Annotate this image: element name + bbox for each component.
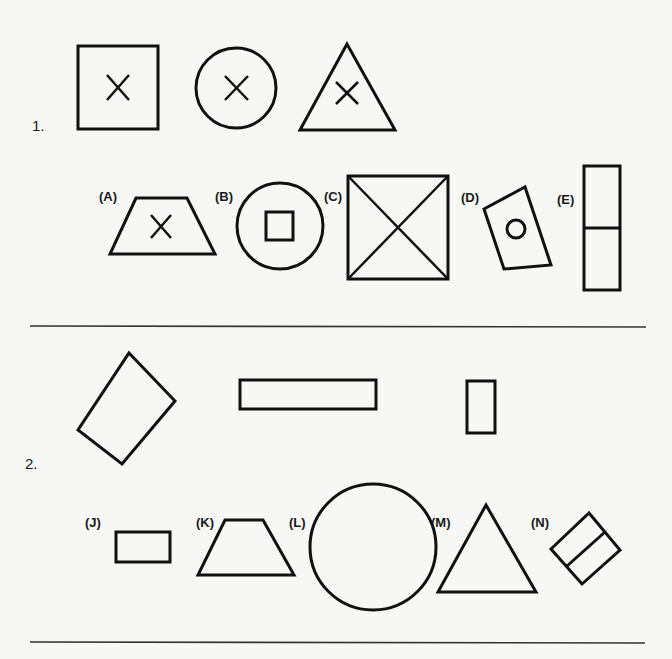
diagram-page: 1. 2. (A) (B) (C) (D) (E) (J) (K) (L) (M… — [0, 0, 672, 659]
option-c-label[interactable]: (C) — [324, 190, 342, 203]
option-n-tilted-divided-rectangle[interactable] — [551, 513, 620, 584]
option-e-label[interactable]: (E) — [557, 193, 574, 206]
option-c-square-with-diagonals[interactable] — [348, 176, 448, 279]
q2-wide-rectangle — [240, 380, 376, 409]
option-k-label[interactable]: (K) — [196, 516, 214, 529]
option-m-triangle[interactable] — [438, 505, 536, 592]
option-a-label[interactable]: (A) — [99, 190, 117, 203]
q1-square-with-x — [78, 46, 158, 129]
option-b-label[interactable]: (B) — [215, 190, 233, 203]
option-l-circle[interactable] — [310, 484, 436, 610]
option-j-small-rectangle[interactable] — [116, 532, 170, 562]
question-1-number: 1. — [32, 118, 45, 133]
option-d-label[interactable]: (D) — [461, 191, 479, 204]
option-e-tall-rectangle-divided[interactable] — [584, 166, 620, 290]
option-j-label[interactable]: (J) — [85, 516, 101, 529]
figures-canvas — [0, 0, 672, 659]
option-d-tilted-rectangle-with-circle[interactable] — [484, 187, 551, 269]
question-2-number: 2. — [25, 456, 38, 471]
option-a-trapezoid-with-x[interactable] — [110, 198, 215, 254]
divider-1 — [30, 326, 646, 327]
q2-tilted-rectangle — [78, 353, 175, 464]
option-l-label[interactable]: (L) — [289, 516, 306, 529]
divider-2 — [30, 642, 645, 643]
q1-triangle-with-x — [300, 44, 395, 130]
option-b-circle-with-square[interactable] — [237, 183, 323, 269]
q1-circle-with-x — [196, 48, 276, 128]
option-m-label[interactable]: (M) — [431, 516, 451, 529]
q2-small-tall-rectangle — [467, 381, 495, 433]
option-n-label[interactable]: (N) — [531, 516, 549, 529]
